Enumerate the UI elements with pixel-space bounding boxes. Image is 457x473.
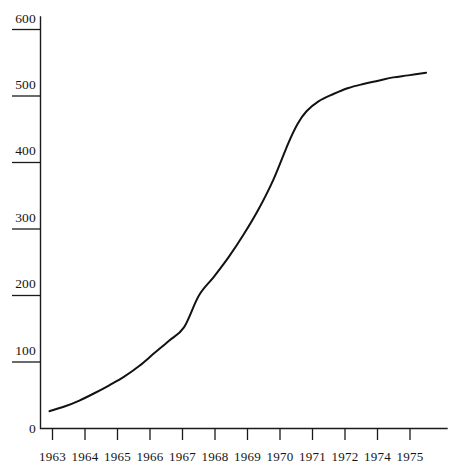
- x-tick-label-1963: 1963: [39, 449, 66, 464]
- x-tick-label-1964: 1964: [72, 449, 99, 464]
- x-tick-label-1967: 1967: [169, 449, 196, 464]
- x-tick-label-1970: 1970: [267, 449, 294, 464]
- y-tick-label-0: 0: [29, 421, 36, 436]
- y-tick-label-400: 400: [15, 143, 36, 158]
- x-axis-tick-group: [53, 429, 411, 440]
- x-tick-label-1975: 1975: [397, 449, 424, 464]
- y-tick-label-300: 300: [15, 210, 36, 225]
- chart-figure: 600 500 400 300 200 100 0: [0, 0, 457, 473]
- line-chart-plot: 600 500 400 300 200 100 0: [0, 0, 457, 473]
- x-tick-label-1971: 1971: [299, 449, 326, 464]
- y-tick-label-600: 600: [15, 11, 36, 26]
- x-axis-label-group: 1963 1964 1965 1966 1967 1968 1969 1970 …: [39, 449, 423, 464]
- y-tick-label-500: 500: [15, 77, 36, 92]
- y-axis-tick-group: 600 500 400 300 200 100 0: [12, 11, 40, 436]
- x-tick-label-1974: 1974: [364, 449, 391, 464]
- y-tick-label-100: 100: [15, 343, 36, 358]
- x-tick-label-1965: 1965: [104, 449, 131, 464]
- x-tick-label-1966: 1966: [137, 449, 164, 464]
- x-tick-label-1972: 1972: [332, 449, 359, 464]
- x-tick-label-1969: 1969: [234, 449, 261, 464]
- data-series-line: [49, 73, 426, 411]
- y-tick-label-200: 200: [15, 276, 36, 291]
- x-tick-label-1968: 1968: [202, 449, 229, 464]
